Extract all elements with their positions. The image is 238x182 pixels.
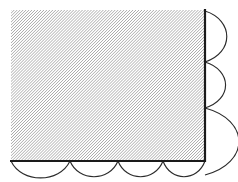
figure-canvas — [0, 0, 238, 182]
hatched-region — [11, 10, 205, 161]
scalloped-hatched-figure — [0, 0, 238, 182]
